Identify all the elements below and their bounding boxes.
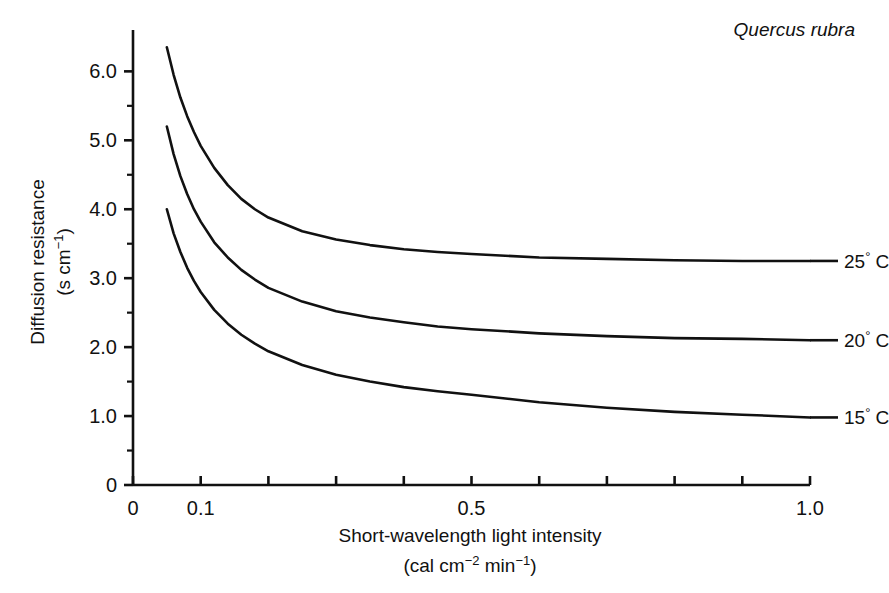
series-label-value: 15 [844, 407, 865, 428]
x-unit-mid: min [480, 555, 516, 576]
diffusion-resistance-line-chart: 01.02.03.04.05.06.0 00.10.51.0 25° C20° … [0, 0, 889, 593]
x-tick-label-3: 1.0 [796, 497, 824, 519]
y-unit-exponent: −1 [51, 235, 66, 250]
x-tick-label-0: 0 [127, 497, 138, 519]
series-label-value: 20 [844, 330, 865, 351]
series-label-value: 25 [844, 251, 865, 272]
x-axis-title-line1: Short-wavelength light intensity [339, 525, 602, 546]
series-label-unit: C [870, 251, 889, 272]
y-tick-label-0: 0 [106, 474, 117, 496]
x-unit-suffix: ) [530, 555, 536, 576]
y-tick-label-3: 3.0 [89, 267, 117, 289]
y-unit-suffix: ) [53, 228, 74, 234]
y-unit-prefix: (s cm [53, 249, 74, 295]
y-tick-label-2: 2.0 [89, 336, 117, 358]
x-unit-exponent-2: −1 [515, 553, 530, 568]
series-label-unit: C [870, 330, 889, 351]
y-tick-label-4: 4.0 [89, 198, 117, 220]
y-tick-label-1: 1.0 [89, 405, 117, 427]
y-axis-title-line1: Diffusion resistance [27, 179, 48, 344]
x-tick-label-2: 0.5 [458, 497, 486, 519]
series-label-unit: C [870, 407, 889, 428]
x-unit-prefix: (cal cm [403, 555, 464, 576]
species-annotation: Quercus rubra [734, 19, 855, 40]
y-tick-label-6: 6.0 [89, 60, 117, 82]
chart-figure: 01.02.03.04.05.06.0 00.10.51.0 25° C20° … [0, 0, 889, 593]
y-tick-label-5: 5.0 [89, 129, 117, 151]
x-tick-label-1: 0.1 [187, 497, 215, 519]
x-unit-exponent-1: −2 [465, 553, 480, 568]
